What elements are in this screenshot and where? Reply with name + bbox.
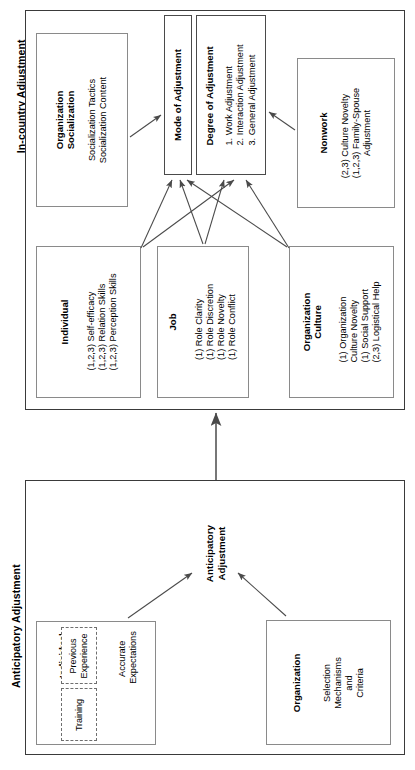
box-lines: (1,2,3) Self-efficacy (1,2,3) Relation S… — [86, 273, 119, 370]
box-line: 2. Interaction Adjustment — [235, 44, 246, 145]
title-line: Job — [167, 313, 178, 330]
box-line: (2,3) Logistical Help — [371, 281, 382, 362]
box-content: Individual (1,2,3) Self-efficacy (1,2,3)… — [58, 273, 118, 370]
box-line: Mechanisms — [333, 657, 344, 709]
title-line: Nonwork — [318, 112, 329, 153]
box-title: Individual — [58, 300, 69, 345]
box-organization-socialization[interactable]: Organization Socialization Socialization… — [36, 33, 128, 207]
box-title: Job — [167, 313, 178, 330]
box-title: Degree of Adjustment — [204, 46, 215, 145]
subbox-training[interactable]: Training — [61, 688, 97, 741]
subbox-line: Previous — [68, 633, 79, 678]
subbox-lines: Previous Experience — [68, 633, 90, 678]
title-line: Mode of Adjustment — [172, 49, 183, 141]
label-accurate-expectations: Accurate Expectations — [103, 648, 153, 724]
box-lines: (2,3) Culture Novelty (1,2,3) Family-Spo… — [341, 88, 374, 178]
box-line: (1) Organization — [338, 281, 349, 362]
subbox-content: Previous Experience — [68, 633, 90, 678]
box-content: Organization Selection Mechanisms and Cr… — [291, 653, 366, 712]
title-line: Organization — [54, 91, 65, 150]
title-line: Organization — [291, 653, 302, 712]
box-line: (1) Role Discretion — [206, 284, 217, 360]
box-line: (1,2,3) Family-Spouse — [352, 88, 363, 178]
box-lines: (1) Role Clarity (1) Role Discretion (1)… — [195, 284, 239, 360]
box-line: (1,2,3) Perception Skills — [108, 273, 119, 370]
box-organization-culture[interactable]: Organization Culture (1) Organization Cu… — [289, 246, 394, 398]
box-content: Job (1) Role Clarity (1) Role Discretion… — [167, 284, 238, 360]
node-label-line: Adjustment — [216, 518, 228, 590]
box-line: and — [344, 657, 355, 709]
box-line: 1. Work Adjustment — [224, 44, 235, 145]
outcome-line: Expectations — [128, 634, 139, 684]
box-line: (1,2,3) Self-efficacy — [86, 273, 97, 370]
section-header-anticipatory: Anticipatory Adjustment — [10, 556, 22, 696]
box-lines: (1) Organization Culture Novelty (1) Soc… — [338, 281, 382, 362]
subbox-line: Training — [74, 698, 85, 730]
box-title: Organization — [291, 653, 302, 712]
box-line: Culture Novelty — [349, 281, 360, 362]
subbox-content: Training — [74, 698, 85, 730]
box-nonwork[interactable]: Nonwork (2,3) Culture Novelty (1,2,3) Fa… — [297, 58, 395, 208]
box-line: Criteria — [355, 657, 366, 709]
subbox-line: Experience — [79, 633, 90, 678]
box-line: (1) Role Novelty — [217, 284, 228, 360]
box-individual-anticipatory[interactable]: Individual Previous Experience Training … — [36, 621, 156, 745]
outcome-line: Accurate — [117, 634, 128, 684]
box-organization-anticipatory[interactable]: Organization Selection Mechanisms and Cr… — [266, 620, 391, 745]
box-individual-incountry[interactable]: Individual (1,2,3) Self-efficacy (1,2,3)… — [36, 246, 141, 398]
box-title: Nonwork — [318, 112, 329, 153]
box-line: Socialization Tactics — [88, 77, 99, 163]
box-lines: Selection Mechanisms and Criteria — [322, 657, 366, 709]
box-line: 3. General Adjustment — [247, 44, 258, 145]
box-line: Selection — [322, 657, 333, 709]
box-line: Socialization Content — [99, 77, 110, 163]
title-line: Socialization — [65, 91, 76, 150]
box-content: Degree of Adjustment 1. Work Adjustment … — [204, 44, 258, 145]
box-title: Organization Culture — [301, 293, 323, 352]
box-lines: 1. Work Adjustment 2. Interaction Adjust… — [224, 44, 258, 145]
box-content: Nonwork (2,3) Culture Novelty (1,2,3) Fa… — [318, 88, 373, 178]
box-job[interactable]: Job (1) Role Clarity (1) Role Discretion… — [157, 246, 249, 398]
box-lines: Socialization Tactics Socialization Cont… — [88, 77, 110, 163]
box-title: Mode of Adjustment — [172, 49, 183, 141]
node-anticipatory-adjustment: Anticipatory Adjustment — [180, 500, 252, 610]
box-title: Organization Socialization — [54, 91, 76, 150]
box-line: (2,3) Culture Novelty — [341, 88, 352, 178]
subbox-previous-experience[interactable]: Previous Experience — [61, 627, 97, 684]
box-line: (1,2,3) Relation Skills — [97, 273, 108, 370]
title-line: Organization — [301, 293, 312, 352]
box-content: Organization Socialization Socialization… — [54, 77, 109, 163]
box-line: (1) Social Support — [360, 281, 371, 362]
title-line: Individual — [58, 300, 69, 345]
title-line: Culture — [312, 293, 323, 352]
box-line: Adjustment — [363, 88, 374, 178]
box-mode-of-adjustment[interactable]: Mode of Adjustment — [164, 15, 192, 175]
box-line: (1) Role Conflict — [228, 284, 239, 360]
box-content: Organization Culture (1) Organization Cu… — [301, 281, 382, 362]
box-content: Mode of Adjustment — [172, 49, 183, 141]
node-label-line: Anticipatory — [204, 518, 216, 590]
box-degree-of-adjustment[interactable]: Degree of Adjustment 1. Work Adjustment … — [196, 15, 266, 175]
subbox-lines: Training — [74, 698, 85, 730]
box-line: (1) Role Clarity — [195, 284, 206, 360]
title-line: Degree of Adjustment — [204, 46, 215, 145]
